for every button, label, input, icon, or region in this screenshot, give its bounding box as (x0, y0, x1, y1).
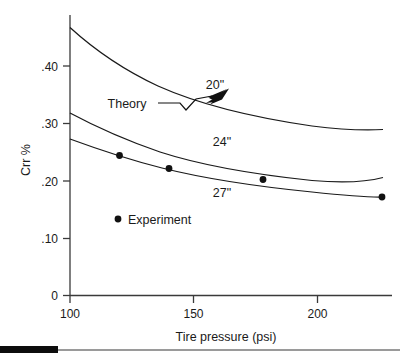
y-tick-label-000: 0 (51, 289, 58, 303)
data-point-3 (260, 176, 267, 183)
curve-label-20: 20" (206, 78, 224, 92)
y-tick-label-010: .10 (41, 232, 58, 246)
theory-label: Theory (108, 97, 148, 111)
crr-vs-tire-pressure-chart: .40 .30 .20 .10 0 100 150 200 Crr % Tire… (0, 0, 400, 358)
y-axis-title: Crr % (19, 144, 33, 176)
chart-figure: .40 .30 .20 .10 0 100 150 200 Crr % Tire… (0, 0, 400, 358)
curve-20-inch (70, 28, 383, 130)
x-tick-marks (70, 296, 318, 304)
data-point-4 (379, 194, 386, 201)
x-tick-label-150: 150 (183, 307, 203, 321)
y-tick-label-030: .30 (41, 117, 58, 131)
x-axis-title: Tire pressure (psi) (176, 330, 277, 344)
y-tick-labels: .40 .30 .20 .10 0 (41, 60, 58, 304)
legend-marker-circle-icon (115, 216, 122, 223)
footer-bar-light (58, 349, 400, 351)
curve-label-27: 27" (213, 186, 231, 200)
footer-bar-dark (0, 346, 58, 353)
legend: Experiment (115, 213, 192, 227)
legend-label-experiment: Experiment (128, 213, 192, 227)
curve-label-24: 24" (213, 135, 231, 149)
x-tick-label-100: 100 (60, 307, 80, 321)
y-tick-label-040: .40 (41, 60, 58, 74)
experiment-data-points (116, 152, 385, 200)
y-tick-label-020: .20 (41, 175, 58, 189)
data-point-2 (166, 165, 173, 172)
x-tick-labels: 100 150 200 (60, 307, 328, 321)
x-tick-label-200: 200 (307, 307, 327, 321)
data-point-1 (116, 152, 123, 159)
theory-curves (70, 28, 383, 198)
y-tick-marks (63, 66, 70, 296)
